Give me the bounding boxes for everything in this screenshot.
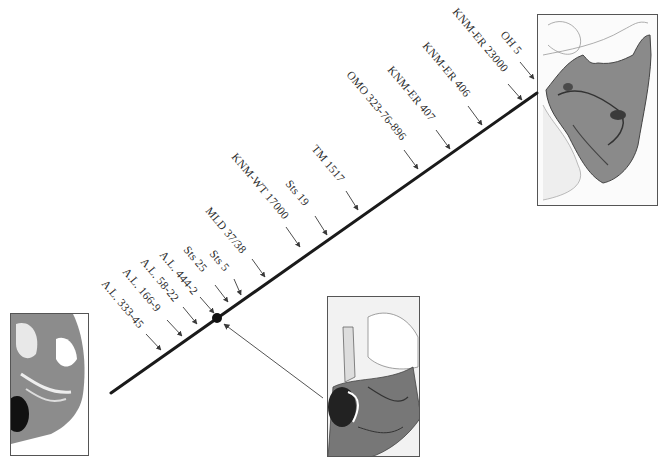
timeline-overlay: A.L. 333-45A.L. 166-9A.L. 58-22A.L. 444-… bbox=[0, 0, 671, 470]
specimen-a-l-333-45: A.L. 333-45 bbox=[99, 278, 161, 350]
arrow-icon bbox=[146, 334, 161, 350]
arrow-icon bbox=[404, 150, 418, 169]
arrow-icon bbox=[315, 216, 327, 235]
arrow-icon bbox=[183, 307, 197, 324]
arrow-icon bbox=[252, 259, 265, 277]
arrow-icon bbox=[200, 297, 214, 313]
timeline-axis bbox=[111, 93, 537, 393]
specimen-label: Sts 25 bbox=[181, 244, 209, 274]
arrow-icon bbox=[346, 191, 358, 210]
arrow-icon bbox=[215, 285, 228, 302]
specimen-label: Sts 19 bbox=[283, 178, 311, 208]
specimen-labels: A.L. 333-45A.L. 166-9A.L. 58-22A.L. 444-… bbox=[99, 6, 534, 350]
arrow-icon bbox=[167, 320, 182, 336]
arrow-icon bbox=[436, 130, 450, 149]
arrow-icon bbox=[520, 62, 534, 79]
specimen-sts-19: Sts 19 bbox=[283, 178, 327, 235]
specimen-label: KNM-ER 407 bbox=[385, 64, 438, 123]
specimen-sts-5: Sts 5 bbox=[207, 248, 241, 295]
arrow-icon bbox=[508, 84, 522, 100]
arrow-icon bbox=[234, 279, 241, 295]
specimen-mld-37-38: MLD 37/38 bbox=[203, 205, 265, 277]
arrow-icon bbox=[468, 106, 482, 125]
specimen-label: OH 5 bbox=[498, 29, 524, 57]
specimen-label: KNM-WT 17000 bbox=[229, 151, 291, 222]
specimen-label: MLD 37/38 bbox=[203, 205, 248, 256]
pointer-line bbox=[224, 324, 323, 398]
specimen-knm-wt-17000: KNM-WT 17000 bbox=[229, 151, 300, 247]
specimen-label: Sts 5 bbox=[207, 248, 231, 274]
timeline-marker-dot bbox=[212, 313, 222, 323]
arrow-icon bbox=[286, 227, 300, 247]
specimen-timeline-diagram: A.L. 333-45A.L. 166-9A.L. 58-22A.L. 444-… bbox=[0, 0, 671, 470]
specimen-tm-1517: TM 1517 bbox=[309, 143, 358, 210]
specimen-label: TM 1517 bbox=[309, 143, 347, 185]
specimen-label: KNM-ER 406 bbox=[420, 40, 473, 99]
